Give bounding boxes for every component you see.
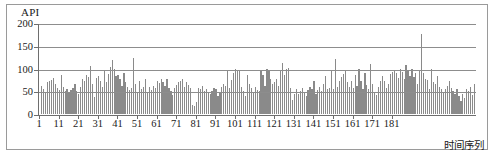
plot-area <box>38 24 476 116</box>
x-tick-label-181: 181 <box>377 118 407 129</box>
bar-series <box>40 23 476 114</box>
y-axis-title: API <box>21 6 39 18</box>
gridline-200 <box>39 24 476 25</box>
gridline-150 <box>39 47 476 48</box>
gridline-100 <box>39 70 476 71</box>
chart-figure: API 050100150200 时间序列 111213141516171819… <box>0 0 500 158</box>
x-axis-title: 时间序列 <box>444 137 484 152</box>
gridline-50 <box>39 92 476 93</box>
bar <box>474 84 475 114</box>
